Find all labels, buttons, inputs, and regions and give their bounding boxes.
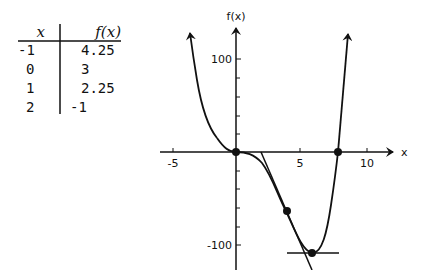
point-minimum [308, 249, 316, 257]
function-graph: x -5 5 10 f(x) 100 -100 [0, 0, 421, 270]
x-tick-label: 5 [297, 157, 304, 170]
curve-left-branch [190, 33, 217, 138]
point-root-8 [334, 148, 342, 156]
curve-right-branch [338, 34, 348, 152]
y-tick-label: -100 [207, 239, 232, 252]
y-tick-label: 100 [211, 53, 232, 66]
x-tick-label: -5 [168, 157, 179, 170]
y-axis-label: f(x) [227, 10, 246, 23]
point-origin [232, 148, 240, 156]
x-tick-label: 10 [360, 157, 374, 170]
x-axis-label: x [401, 146, 408, 159]
point-inflection [283, 207, 291, 215]
